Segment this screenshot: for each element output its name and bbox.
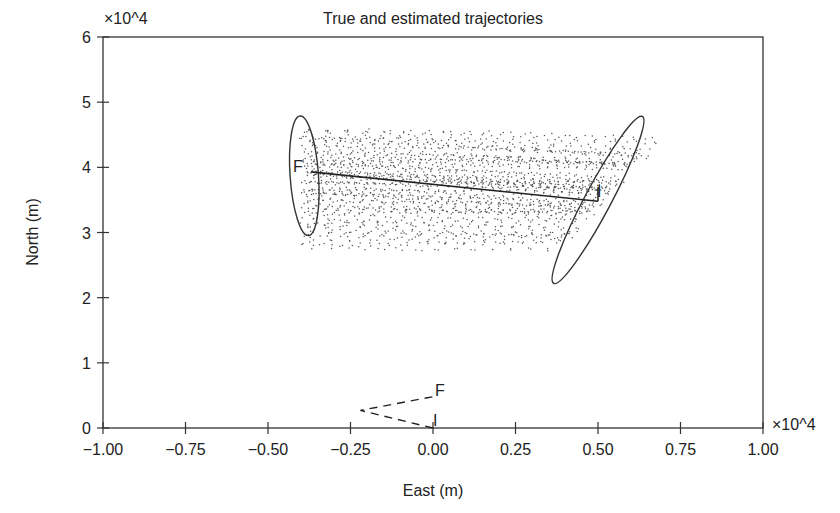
x-tick-label: 0.25	[500, 441, 531, 458]
uncertainty-ellipse	[286, 115, 323, 237]
estimated-trajectory-dots	[299, 128, 657, 251]
y-tick-label: 5	[82, 94, 91, 111]
x-axis-label: East (m)	[403, 482, 463, 499]
sensor-trajectory-line	[360, 397, 433, 428]
y-tick-label: 2	[82, 290, 91, 307]
x-tick-label: 1.00	[747, 441, 778, 458]
chart-title: True and estimated trajectories	[323, 10, 543, 27]
y-axis-label: North (m)	[24, 198, 41, 266]
sensor-trajectory-initial-label: I	[433, 412, 437, 429]
x-tick-label: 0.50	[582, 441, 613, 458]
y-tick-label: 0	[82, 420, 91, 437]
x-tick-label: −1.00	[83, 441, 124, 458]
x-tick-label: 0.00	[417, 441, 448, 458]
y-axis-ticks: 0123456	[82, 29, 109, 437]
x-tick-label: −0.75	[165, 441, 206, 458]
x-tick-label: −0.50	[248, 441, 289, 458]
trajectory-chart: True and estimated trajectories ×10^4 ×1…	[0, 0, 840, 513]
x-tick-label: 0.75	[665, 441, 696, 458]
true-trajectory-final-label: F	[293, 158, 303, 175]
y-tick-label: 3	[82, 225, 91, 242]
y-multiplier-label: ×10^4	[104, 10, 148, 27]
x-tick-label: −0.25	[330, 441, 371, 458]
y-tick-label: 1	[82, 355, 91, 372]
plot-frame	[103, 37, 763, 428]
y-tick-label: 4	[82, 159, 91, 176]
sensor-trajectory-final-label: F	[435, 382, 445, 399]
x-multiplier-label: ×10^4	[772, 416, 816, 433]
y-tick-label: 6	[82, 29, 91, 46]
